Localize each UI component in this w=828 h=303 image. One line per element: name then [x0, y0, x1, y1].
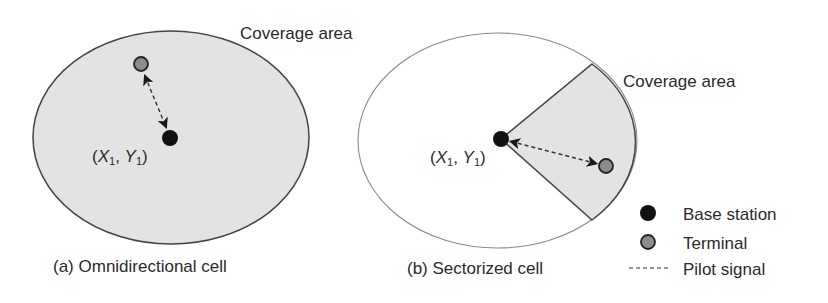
- legend-item-terminal: Terminal: [683, 233, 747, 253]
- caption-omnidirectional: (a) Omnidirectional cell: [53, 258, 227, 275]
- base-station-dot-icon: [640, 205, 656, 221]
- legend-label: Terminal: [683, 235, 747, 252]
- coverage-area-label: Coverage area: [240, 25, 352, 42]
- sectorized-cell: [358, 33, 637, 248]
- terminal-icon: [599, 159, 613, 173]
- legend-item-base-station: Base station: [683, 204, 777, 224]
- terminal-dot-icon: [641, 235, 655, 249]
- legend-item-pilot-signal: Pilot signal: [683, 259, 765, 279]
- caption-sectorized: (b) Sectorized cell: [407, 260, 543, 277]
- paren-close: ): [480, 148, 486, 167]
- coord-sep: ,: [453, 148, 462, 167]
- base-station-icon: [162, 130, 178, 146]
- coord-x: X: [98, 147, 109, 166]
- legend-label: Base station: [683, 206, 777, 223]
- omnidirectional-cell: [33, 31, 309, 244]
- base-station-coordinates: (X1, Y1): [430, 149, 486, 168]
- legend-label: Pilot signal: [683, 261, 765, 278]
- coord-y: Y: [463, 148, 474, 167]
- base-station-icon: [493, 131, 509, 147]
- coverage-area-label: Coverage area: [623, 73, 735, 90]
- coord-sep: ,: [115, 147, 124, 166]
- coord-y: Y: [125, 147, 136, 166]
- coord-x: X: [436, 148, 447, 167]
- paren-close: ): [142, 147, 148, 166]
- terminal-icon: [134, 57, 148, 71]
- legend-symbols: [629, 205, 669, 268]
- base-station-coordinates: (X1, Y1): [92, 148, 148, 167]
